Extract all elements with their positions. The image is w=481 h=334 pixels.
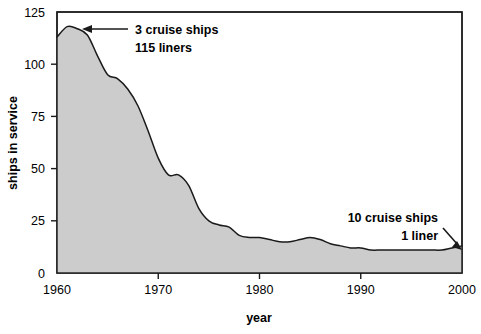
y-tick-label: 0 <box>38 267 45 281</box>
tail-annotation-line-2: 1 liner <box>401 229 438 243</box>
y-tick-label: 50 <box>31 162 45 176</box>
x-tick-label: 1990 <box>347 283 375 297</box>
tail-annotation-line-1: 10 cruise ships <box>348 211 438 225</box>
x-axis-title: year <box>246 311 272 325</box>
y-axis-ticks: 0255075100125 <box>24 6 57 281</box>
y-axis-title: ships in service <box>6 96 20 190</box>
x-tick-label: 2000 <box>448 283 476 297</box>
y-tick-label: 125 <box>24 6 45 20</box>
y-tick-label: 25 <box>31 214 45 228</box>
y-tick-label: 75 <box>31 110 45 124</box>
peak-annotation-line-1: 3 cruise ships <box>135 23 218 37</box>
x-axis-ticks: 19601970198019902000 <box>43 273 476 297</box>
ships-in-service-area-chart: 0255075100125 19601970198019902000 ships… <box>0 0 481 334</box>
x-tick-label: 1960 <box>43 283 71 297</box>
x-tick-label: 1980 <box>246 283 274 297</box>
peak-annotation-line-2: 115 liners <box>135 41 192 55</box>
chart-figure: 0255075100125 19601970198019902000 ships… <box>0 0 481 334</box>
y-tick-label: 100 <box>24 58 45 72</box>
x-tick-label: 1970 <box>144 283 172 297</box>
